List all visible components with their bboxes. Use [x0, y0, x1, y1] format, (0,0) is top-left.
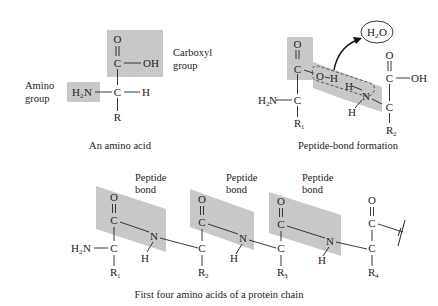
atom-r1-sub: 1 — [301, 123, 305, 131]
water-release-arrow — [334, 40, 357, 70]
atom-r: R — [114, 111, 122, 123]
r4-calpha: C — [368, 242, 375, 254]
amino-label-line1: Amino — [25, 80, 54, 91]
r3-r-sub: 3 — [284, 272, 288, 280]
atom-oh-o: O — [316, 70, 324, 82]
residue-4: O C C R 4 — [368, 194, 405, 280]
amino-label-line2: group — [25, 93, 50, 104]
atom-h2n-n: N — [269, 94, 277, 106]
water-h: H — [367, 26, 375, 38]
caption-peptide-formation: Peptide-bond formation — [298, 140, 399, 151]
r3-h: H — [318, 254, 326, 266]
atom-c-alpha: C — [114, 86, 121, 98]
atom-c2: C — [386, 72, 393, 84]
r2-r-sub: 2 — [205, 272, 209, 280]
r2-c: C — [198, 216, 205, 228]
atom-h2n-n: N — [84, 86, 92, 98]
r1-o: O — [110, 191, 118, 203]
r1-r-sub: 1 — [117, 272, 121, 280]
r3-n: N — [326, 235, 334, 247]
r2-o: O — [198, 193, 206, 205]
peptide-bond-label-3b: bond — [302, 184, 324, 195]
r4-c: C — [368, 217, 375, 229]
panel-protein-chain: Peptide bond Peptide bond Peptide bond H… — [71, 172, 405, 300]
peptide-diagram: O C OH H 2 N C H R Carboxyl group Amino … — [0, 0, 438, 306]
atom-h-n: H — [348, 106, 356, 118]
atom-c-alpha1: C — [294, 94, 301, 106]
peptide-bond-label-1b: bond — [135, 184, 157, 195]
panel-amino-acid: O C OH H 2 N C H R Carboxyl group Amino … — [25, 30, 212, 151]
atom-oh: OH — [143, 57, 159, 69]
r4-continuation-bond — [378, 224, 403, 232]
peptide-bond-label-2a: Peptide — [226, 172, 258, 183]
panel-peptide-formation: H 2 O O C O H H N H H 2 N C R 1 — [258, 21, 427, 151]
atom-n: N — [362, 90, 370, 102]
atom-o: O — [114, 33, 122, 45]
r2-n: N — [239, 232, 247, 244]
atom-oh-h: H — [330, 72, 338, 84]
r4-o: O — [368, 194, 376, 206]
atom-oh2: OH — [411, 72, 427, 84]
r2-calpha: C — [198, 242, 205, 254]
atom-h2n-h: H — [258, 94, 266, 106]
carboxyl-label-line2: group — [173, 60, 198, 71]
atom-h-amine: H — [345, 80, 353, 92]
r1-c: C — [110, 214, 117, 226]
r3-calpha: C — [277, 242, 284, 254]
n-terminus-n: N — [83, 242, 91, 254]
r3-o: O — [277, 195, 285, 207]
diagram-svg: O C OH H 2 N C H R Carboxyl group Amino … — [0, 0, 438, 306]
caption-amino-acid: An amino acid — [89, 140, 152, 151]
r1-h: H — [141, 252, 149, 264]
atom-c-carbonyl: C — [114, 57, 121, 69]
carboxyl-label-line1: Carboxyl — [173, 47, 212, 58]
n-terminus-h: H — [71, 242, 79, 254]
atom-r2-sub: 2 — [393, 130, 397, 138]
peptide-plane-1 — [96, 186, 166, 252]
peptide-bond-label-2b: bond — [226, 184, 248, 195]
water-o: O — [379, 26, 387, 38]
peptide-bond-label-3a: Peptide — [302, 172, 334, 183]
atom-o1: O — [294, 38, 302, 50]
r2-h: H — [230, 252, 238, 264]
atom-h2n-h: H — [72, 86, 80, 98]
peptide-bond-label-1a: Peptide — [135, 172, 167, 183]
caption-protein-chain: First four amino acids of a protein chai… — [135, 289, 305, 300]
atom-c-alpha2: C — [386, 101, 393, 113]
atom-o2: O — [386, 49, 394, 61]
r1-calpha: C — [110, 242, 117, 254]
atom-h: H — [142, 86, 150, 98]
atom-c1: C — [294, 63, 301, 75]
r1-n: N — [150, 230, 158, 242]
r4-r-sub: 4 — [375, 272, 379, 280]
r3-c: C — [277, 218, 284, 230]
